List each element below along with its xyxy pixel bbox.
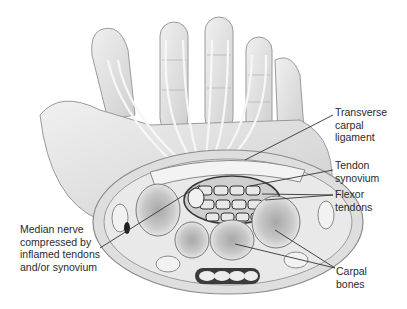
label-flexor-tendons: Flexor tendons (335, 188, 372, 213)
label-carpal-bones: Carpal bones (336, 265, 367, 290)
extensor-tendons (195, 268, 260, 284)
label-median-nerve: Median nerve compressed by inflamed tend… (20, 223, 100, 273)
carpal-tunnel-diagram: Transverse carpal ligament Tendon synovi… (0, 0, 407, 309)
thumb-finger (92, 28, 135, 120)
label-transverse-carpal-ligament: Transverse carpal ligament (335, 106, 387, 144)
label-tendon-synovium: Tendon synovium (335, 159, 379, 184)
